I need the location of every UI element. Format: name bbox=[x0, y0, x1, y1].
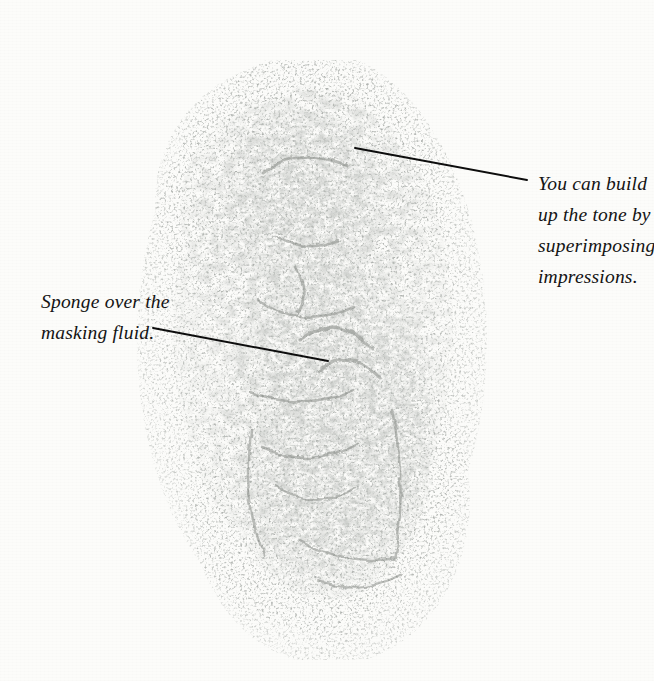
annotation-sponge-line-1: Sponge over the bbox=[41, 286, 170, 317]
annotation-superimposing-line-1: You can build bbox=[538, 168, 654, 199]
artwork-sponge-mass bbox=[130, 70, 510, 640]
artwork-spatter-halo bbox=[120, 60, 520, 660]
leader-line-superimposing bbox=[355, 148, 527, 180]
illustration-page: You can build up the tone by superimposi… bbox=[0, 0, 654, 681]
annotation-superimposing-line-3: superimposing bbox=[538, 230, 654, 261]
annotation-sponge: Sponge over the masking fluid. bbox=[41, 286, 170, 348]
annotation-superimposing-line-4: impressions. bbox=[538, 261, 654, 292]
artwork-core-masses bbox=[180, 90, 470, 620]
leader-line-sponge bbox=[153, 328, 328, 361]
annotation-superimposing: You can build up the tone by superimposi… bbox=[538, 168, 654, 292]
annotation-superimposing-line-2: up the tone by bbox=[538, 199, 654, 230]
annotation-sponge-line-2: masking fluid. bbox=[41, 317, 170, 348]
artwork-contours bbox=[248, 157, 402, 586]
